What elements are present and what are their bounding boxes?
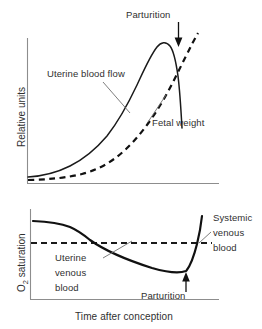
uterine-venous-blood-label-line2: venous — [55, 267, 86, 278]
systemic-venous-blood-label-line3: blood — [213, 242, 237, 253]
fetal-weight-curve — [28, 33, 198, 180]
systemic-venous-blood-leader — [199, 232, 211, 243]
physiology-figure: Relative units Parturition Uterine blood… — [0, 0, 262, 329]
uterine-blood-flow-leader — [103, 82, 130, 113]
saturation-word: saturation — [16, 233, 27, 277]
uterine-venous-blood-label-line1: Uterine — [55, 252, 86, 263]
systemic-venous-blood-label-line1: Systemic — [213, 212, 252, 223]
uterine-blood-flow-curve — [28, 43, 182, 177]
uterine-venous-blood-label-line3: blood — [55, 282, 79, 293]
x-axis-title: Time after conception — [75, 311, 173, 322]
top-parturition-label: Parturition — [126, 9, 170, 20]
fetal-weight-label: Fetal weight — [152, 117, 204, 128]
bottom-y-axis-title: O2 saturation — [16, 233, 30, 292]
o2-subscript: 2 — [21, 280, 30, 284]
o2-symbol: O — [16, 284, 27, 292]
bottom-parturition-label: Parturition — [141, 290, 185, 301]
uterine-blood-flow-label: Uterine blood flow — [47, 68, 125, 79]
uterine-venous-blood-curve — [33, 216, 202, 272]
top-y-axis-title: Relative units — [16, 87, 27, 147]
bottom-parturition-arrow-head — [182, 272, 190, 282]
figure-canvas — [0, 0, 262, 329]
systemic-venous-blood-label-line2: venous — [213, 227, 244, 238]
top-parturition-arrow-head — [175, 38, 183, 48]
top-panel — [27, 22, 219, 184]
